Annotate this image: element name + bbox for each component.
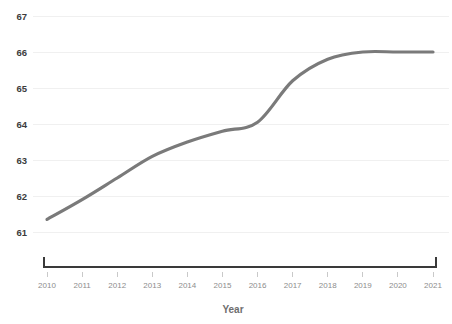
chart-canvas: 61626364656667 2010201120122013201420152… bbox=[0, 0, 452, 324]
y-axis-tick-label: 64 bbox=[16, 119, 27, 130]
x-axis-tick-label: 2015 bbox=[214, 281, 232, 290]
x-axis-tick-label: 2020 bbox=[389, 281, 407, 290]
y-axis-tick-label: 67 bbox=[16, 11, 27, 22]
x-axis-tick-label: 2019 bbox=[354, 281, 372, 290]
x-axis-tick-label: 2011 bbox=[73, 281, 91, 290]
y-axis-tick-label: 61 bbox=[16, 227, 27, 238]
x-axis-tick-label: 2018 bbox=[319, 281, 337, 290]
y-axis-tick-label: 62 bbox=[16, 191, 27, 202]
chart-background bbox=[0, 0, 452, 324]
x-axis-tick-label: 2013 bbox=[143, 281, 161, 290]
x-axis-tick-label: 2017 bbox=[284, 281, 302, 290]
x-axis-title: Year bbox=[222, 304, 243, 315]
y-axis-tick-label: 63 bbox=[16, 155, 27, 166]
x-axis-tick-label: 2021 bbox=[424, 281, 442, 290]
x-axis-tick-label: 2014 bbox=[178, 281, 196, 290]
y-axis-tick-label: 65 bbox=[16, 83, 27, 94]
y-axis-tick-label: 66 bbox=[16, 47, 27, 58]
x-axis-tick-label: 2010 bbox=[38, 281, 56, 290]
x-axis-tick-label: 2012 bbox=[108, 281, 126, 290]
x-axis-tick-label: 2016 bbox=[249, 281, 267, 290]
line-chart: 61626364656667 2010201120122013201420152… bbox=[0, 0, 452, 324]
